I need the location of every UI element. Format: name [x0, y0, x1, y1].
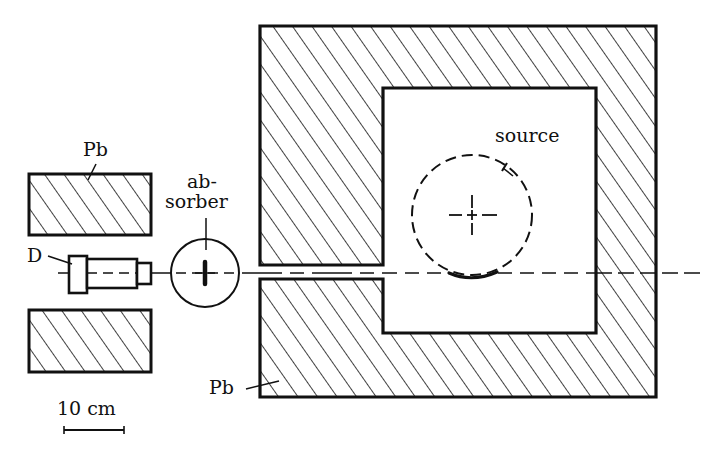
lead-block-upper-left	[29, 174, 151, 235]
absorber	[171, 218, 239, 307]
detector	[69, 256, 151, 293]
label-scale: 10 cm	[57, 398, 116, 419]
source	[412, 155, 532, 278]
label-detector: D	[27, 245, 42, 266]
label-pb-main: Pb	[209, 377, 234, 398]
label-source: source	[495, 125, 559, 146]
label-absorber-line1: ab-	[187, 171, 217, 192]
scale-bar	[64, 426, 124, 434]
label-absorber-line2: sorber	[165, 191, 228, 212]
label-pb-left: Pb	[83, 139, 108, 160]
lead-shield-main	[260, 26, 656, 397]
source-center-cross-icon	[449, 195, 497, 235]
diagram-canvas: Pb ab- sorber D source Pb 10 cm	[0, 0, 712, 449]
diagram-drawing	[0, 0, 712, 449]
lead-block-lower-left	[29, 310, 151, 372]
